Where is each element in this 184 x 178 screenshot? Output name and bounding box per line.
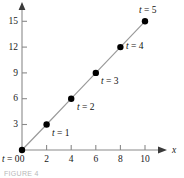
figure-container: 15 12 9 6 3 0 2 4 6 8 10 x t = 0 t = 1 t…: [0, 0, 184, 178]
data-point-t1[interactable]: [43, 121, 49, 127]
y-tick-label-9: 9: [0, 69, 18, 79]
x-axis-label: x: [172, 146, 176, 156]
y-tick-label-3: 3: [0, 120, 18, 130]
annotation-t1: t = 1: [52, 129, 70, 139]
x-axis-arrowhead: [158, 146, 167, 153]
y-tick-label-6: 6: [0, 94, 18, 104]
annotation-t4: t = 4: [126, 42, 144, 52]
x-tick-label-2: 2: [40, 155, 54, 165]
data-point-t5[interactable]: [142, 18, 148, 24]
data-point-t4[interactable]: [117, 44, 123, 50]
x-tick-label-6: 6: [89, 155, 103, 165]
x-axis-ticks: [47, 145, 145, 150]
x-tick-label-10: 10: [137, 155, 153, 165]
x-tick-label-8: 8: [113, 155, 127, 165]
chart-canvas: [0, 0, 184, 178]
annotation-t2: t = 2: [77, 103, 95, 113]
annotation-t5: t = 5: [139, 6, 157, 16]
x-tick-label-4: 4: [64, 155, 78, 165]
y-axis-arrowhead: [19, 2, 26, 10]
data-point-t2[interactable]: [68, 96, 74, 102]
annotation-t0: t = 0: [2, 155, 20, 165]
y-tick-label-12: 12: [0, 43, 18, 53]
y-axis-ticks: [22, 21, 27, 124]
data-point-t3[interactable]: [93, 70, 99, 76]
y-tick-label-15: 15: [0, 17, 18, 27]
annotation-t3: t = 3: [101, 77, 119, 87]
data-point-t0[interactable]: [19, 147, 25, 153]
figure-caption: FIGURE 4: [4, 170, 39, 178]
